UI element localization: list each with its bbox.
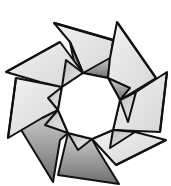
origami-ring-drawing <box>0 0 171 186</box>
origami-ring-illustration: Eight-unit modular origami ring (octagon… <box>0 0 171 186</box>
center-hole <box>58 73 120 139</box>
